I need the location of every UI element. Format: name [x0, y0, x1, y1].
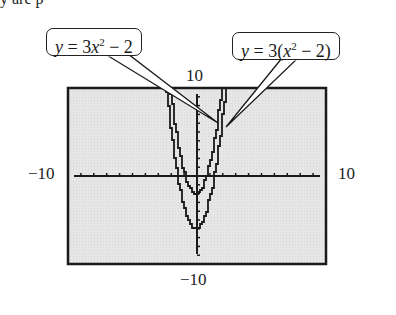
eq-part: = 3(	[249, 41, 283, 61]
callout-inner-parabola: y = 3x2 − 2	[46, 28, 142, 56]
eq-var: y	[55, 37, 63, 57]
eq-x: x	[91, 37, 99, 57]
eq-part: = 3	[63, 37, 91, 57]
callout-outer-parabola: y = 3(x2 − 2)	[232, 32, 340, 60]
x-max-label: 10	[338, 164, 355, 184]
y-min-label: −10	[180, 270, 207, 290]
x-min-label: −10	[28, 164, 55, 184]
eq-tail: − 2)	[297, 41, 331, 61]
y-max-label: 10	[186, 66, 203, 86]
eq-var: y	[241, 41, 249, 61]
eq-x: x	[283, 41, 291, 61]
eq-tail: − 2	[105, 37, 133, 57]
